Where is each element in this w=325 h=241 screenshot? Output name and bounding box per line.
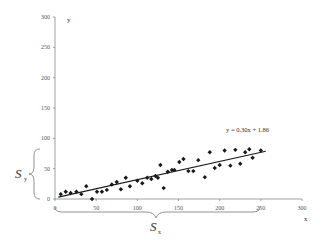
data-point-diamond-icon	[196, 158, 200, 162]
data-point-diamond-icon	[124, 176, 128, 180]
data-point-diamond-icon	[250, 156, 254, 160]
data-point-diamond-icon	[64, 190, 68, 194]
data-point-diamond-icon	[84, 184, 88, 188]
sx-subscript: x	[158, 229, 161, 235]
x-tick-label: 300	[298, 205, 307, 211]
data-point-diamond-icon	[145, 176, 149, 180]
data-point-diamond-icon	[158, 163, 162, 167]
sy-label: S	[15, 166, 22, 181]
axes	[55, 17, 302, 199]
y-tick-label: 250	[41, 44, 50, 50]
data-point-diamond-icon	[208, 150, 212, 154]
y-axis-title: y	[67, 16, 71, 24]
x-ticks: 050100150200250300	[54, 199, 307, 211]
y-tick-label: 50	[44, 166, 50, 172]
y-tick-label: 150	[41, 105, 50, 111]
y-tick-label: 200	[41, 75, 50, 81]
y-ticks: 050100150200250300	[41, 14, 55, 202]
data-point-diamond-icon	[59, 192, 63, 196]
data-point-diamond-icon	[181, 157, 185, 161]
x-tick-label: 150	[174, 205, 183, 211]
data-point-diamond-icon	[90, 197, 94, 201]
data-point-diamond-icon	[222, 148, 226, 152]
data-point-diamond-icon	[100, 190, 104, 194]
trendline-equation: y = 0.30x + 1.86	[226, 126, 270, 133]
data-point-diamond-icon	[217, 163, 221, 167]
data-point-diamond-icon	[177, 160, 181, 164]
data-point-diamond-icon	[186, 169, 190, 173]
y-tick-label: 100	[41, 135, 50, 141]
data-point-diamond-icon	[140, 181, 144, 185]
x-tick-label: 250	[256, 205, 265, 211]
data-point-diamond-icon	[238, 162, 242, 166]
scatter-chart: 050100150200250300 050100150200250300 y …	[0, 0, 325, 241]
data-point-diamond-icon	[228, 163, 232, 167]
y-tick-label: 300	[41, 14, 50, 20]
data-point-diamond-icon	[119, 187, 123, 191]
y-tick-label: 0	[47, 196, 50, 202]
data-point-diamond-icon	[247, 147, 251, 151]
data-point-diamond-icon	[243, 150, 247, 154]
y-brace	[29, 149, 40, 199]
x-axis-title: x	[304, 215, 308, 223]
data-point-diamond-icon	[95, 190, 99, 194]
data-point-diamond-icon	[128, 184, 132, 188]
data-point-diamond-icon	[213, 166, 217, 170]
x-tick-label: 100	[133, 205, 142, 211]
x-brace	[55, 207, 260, 218]
data-point-diamond-icon	[161, 186, 165, 190]
x-tick-label: 50	[93, 205, 99, 211]
sx-label: S	[150, 219, 157, 234]
sy-subscript: y	[24, 176, 27, 182]
data-point-diamond-icon	[191, 169, 195, 173]
data-point-diamond-icon	[203, 175, 207, 179]
x-tick-label: 200	[215, 205, 224, 211]
trendline	[58, 151, 265, 197]
data-point-diamond-icon	[105, 188, 109, 192]
data-point-diamond-icon	[233, 148, 237, 152]
regression-line	[58, 151, 265, 197]
